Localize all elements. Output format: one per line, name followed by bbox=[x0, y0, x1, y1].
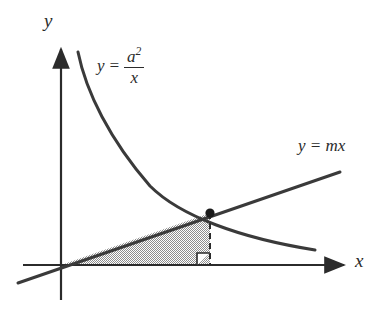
fraction-denominator: x bbox=[127, 68, 141, 87]
x-axis-label: x bbox=[355, 250, 363, 272]
line-y-equals-mx bbox=[18, 172, 340, 283]
curve-equation-label: y = a2 x bbox=[97, 46, 144, 87]
numerator-base: a bbox=[127, 47, 136, 66]
numerator-exponent: 2 bbox=[136, 45, 142, 58]
math-figure bbox=[0, 0, 382, 313]
shaded-triangle-region bbox=[61, 213, 210, 265]
line-equation-rhs: mx bbox=[326, 136, 346, 155]
line-equation-label: y = mx bbox=[298, 136, 345, 156]
curve-equation-lhs: y bbox=[97, 56, 105, 76]
y-axis-label: y bbox=[44, 10, 52, 32]
line-equation-lhs: y bbox=[298, 136, 306, 155]
curve-equation-equals: = bbox=[109, 56, 120, 76]
line-equation-equals: = bbox=[310, 136, 321, 155]
curve-equation-fraction: a2 x bbox=[124, 46, 144, 87]
intersection-point-dot bbox=[205, 208, 214, 217]
fraction-numerator: a2 bbox=[124, 46, 144, 67]
